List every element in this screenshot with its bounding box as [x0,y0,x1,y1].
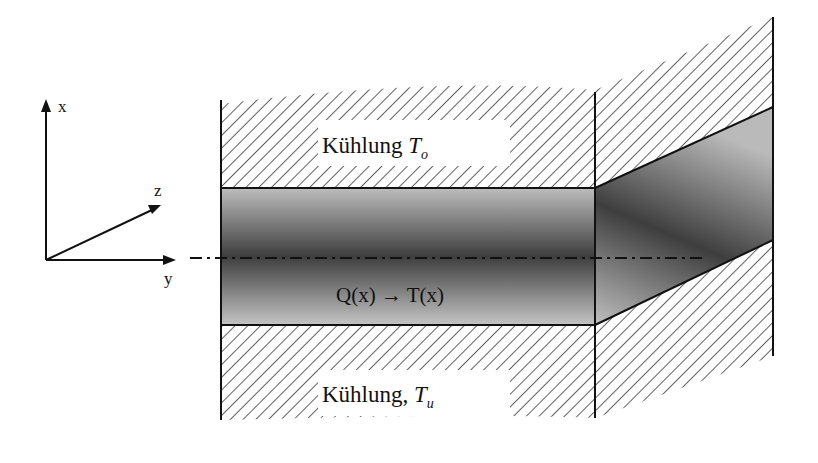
x-axis-arrow-icon [41,99,51,112]
diagram-canvas: x y z Kühlung To Q(x) → T(x) Kühlung, Tu [0,0,818,463]
coordinate-axes: x y z [41,97,176,288]
y-axis-label: y [164,269,173,288]
z-axis-arrow-icon [148,205,161,214]
x-axis-label: x [58,97,67,116]
top-cooling-label: Kühlung To [322,133,428,162]
slab-label: Q(x) → T(x) [336,283,444,307]
z-axis-label: z [154,181,162,200]
y-axis-arrow-icon [163,255,176,265]
bottom-cooling-label: Kühlung, Tu [322,382,434,411]
